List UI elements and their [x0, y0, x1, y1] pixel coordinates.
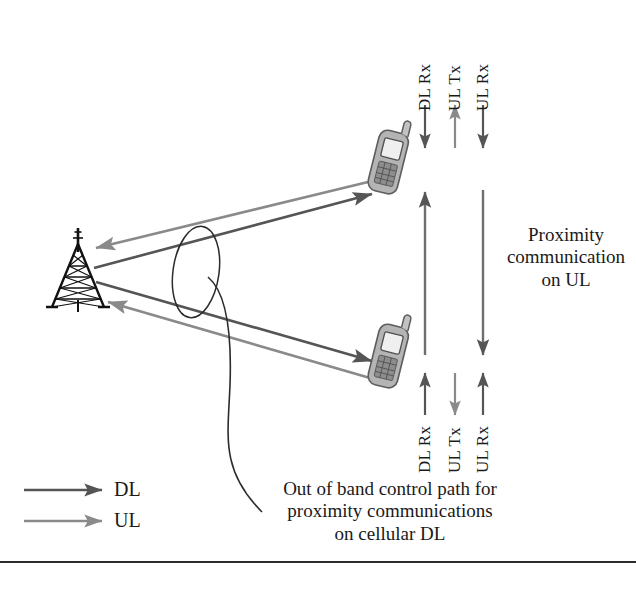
callout-line2: proximity communications: [256, 500, 524, 522]
callout-leader-line: [208, 277, 262, 512]
callout-line1: Out of band control path for: [256, 478, 524, 500]
lower-label-ul-rx: UL Rx: [473, 427, 493, 473]
uplink-arrow-lower: [108, 302, 370, 378]
downlink-arrow-upper: [94, 194, 372, 268]
page-bottom-rule: [0, 561, 636, 563]
proximity-annotation-line3: on UL: [500, 269, 632, 291]
lower-label-dl-rx: DL Rx: [415, 427, 435, 473]
proximity-annotation: Proximity communication on UL: [500, 224, 632, 291]
callout-line3: on cellular DL: [256, 523, 524, 545]
upper-label-ul-rx: UL Rx: [473, 65, 493, 111]
uplink-arrow-upper: [96, 182, 368, 248]
proximity-annotation-line2: communication: [500, 246, 632, 268]
downlink-arrow-lower: [96, 282, 372, 361]
proximity-annotation-line1: Proximity: [500, 224, 632, 246]
cell-tower-icon: [46, 228, 110, 312]
mobile-phone-upper-icon: [366, 115, 413, 196]
legend-downlink-label: DL: [114, 478, 141, 502]
upper-label-ul-tx: UL Tx: [445, 65, 465, 111]
upper-label-dl-rx: DL Rx: [415, 65, 435, 111]
out-of-band-callout: Out of band control path for proximity c…: [256, 478, 524, 545]
figure-root: DL Rx UL Tx UL Rx DL Rx UL Tx UL Rx Prox…: [0, 0, 636, 590]
lower-label-ul-tx: UL Tx: [445, 427, 465, 473]
legend-uplink-label: UL: [114, 509, 141, 533]
mobile-phone-lower-icon: [366, 309, 413, 390]
